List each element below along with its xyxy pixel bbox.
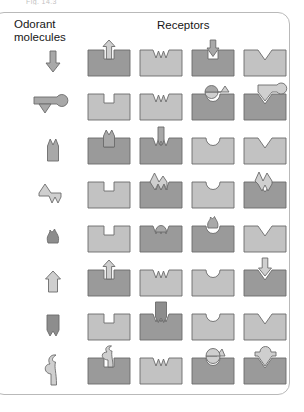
receptor-round-unbound [192, 270, 234, 296]
receptor-square-unbound [88, 226, 130, 252]
receptor-group [86, 260, 296, 304]
odorant-row [0, 304, 304, 348]
receptor-round-bound [192, 358, 234, 384]
odorant-row [0, 216, 304, 260]
receptor-square-unbound [88, 182, 130, 208]
odorant-left-arrow-zigzag-molecule [22, 172, 84, 216]
odorant-row [0, 84, 304, 128]
odorant-row [0, 40, 304, 84]
receptor-square-bound [88, 138, 130, 164]
odorant-down-arrow-molecule [22, 40, 84, 84]
odorant-flame-blob-molecule [22, 216, 84, 260]
receptor-round-unbound [192, 314, 234, 340]
receptor-square-bound [88, 358, 130, 384]
clipped-caption-text: Fig. 14.3 [26, 0, 57, 5]
odorant-row [0, 172, 304, 216]
receptor-group [86, 40, 296, 84]
receptor-round-unbound [192, 138, 234, 164]
odorant-s-curve-molecule [22, 348, 84, 392]
odorant-receptor-figure: Fig. 14.3 Odorant molecules Receptors [0, 0, 304, 412]
receptor-square-bound [88, 270, 130, 296]
receptor-zigzag-bound [140, 314, 182, 340]
receptor-square-bound [88, 50, 130, 76]
receptor-vee-bound [244, 270, 286, 296]
receptor-round-bound [192, 94, 234, 120]
odorant-tadpole-molecule [22, 84, 84, 128]
receptors-column-header: Receptors [157, 19, 209, 31]
receptor-group [86, 348, 296, 392]
receptor-vee-bound [244, 182, 286, 208]
receptor-zigzag-unbound [140, 270, 182, 296]
odorant-row [0, 260, 304, 304]
receptor-round-unbound [192, 182, 234, 208]
receptor-zigzag-bound [140, 138, 182, 164]
receptor-vee-unbound [244, 138, 286, 164]
receptor-vee-unbound [244, 314, 286, 340]
receptor-square-unbound [88, 94, 130, 120]
receptor-group [86, 304, 296, 348]
odorant-twin-peak-arrow-molecule [22, 128, 84, 172]
receptor-vee-unbound [244, 50, 286, 76]
odorant-banner-molecule [22, 304, 84, 348]
receptor-square-unbound [88, 314, 130, 340]
receptor-zigzag-unbound [140, 50, 182, 76]
receptor-group [86, 216, 296, 260]
receptor-zigzag-unbound [140, 94, 182, 120]
receptor-zigzag-unbound [140, 358, 182, 384]
receptor-group [86, 128, 296, 172]
receptor-zigzag-bound [140, 182, 182, 208]
receptor-vee-bound [244, 94, 286, 120]
receptor-group [86, 84, 296, 128]
receptor-square-bound [192, 50, 234, 76]
odorant-row [0, 128, 304, 172]
receptor-round-bound [192, 226, 234, 252]
receptor-group [86, 172, 296, 216]
receptor-vee-bound [244, 358, 286, 384]
odorant-pentagon-arrow-molecule [22, 260, 84, 304]
odorant-row [0, 348, 304, 392]
receptor-zigzag-bound [140, 226, 182, 252]
receptor-vee-unbound [244, 226, 286, 252]
